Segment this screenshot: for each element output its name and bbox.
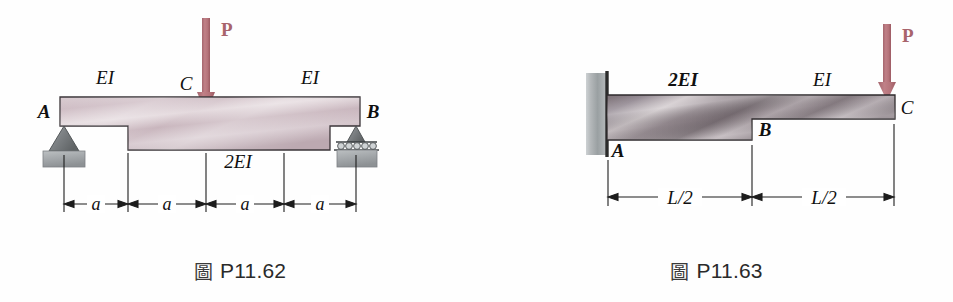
roller-circles [338,143,377,150]
dimension-label-l2-2: L/2 [810,187,837,208]
node-label-c: C [901,97,914,118]
dimension-chain [608,194,894,201]
stiffness-label-ei-right: EI [300,67,321,88]
fixed-support-a [586,71,607,157]
node-label-a: A [37,101,51,122]
stiffness-label-2ei: 2EI [667,69,698,90]
load-label-p: P [221,19,233,40]
dimension-label-l2-1: L/2 [666,187,693,208]
figure-sheet: P EI EI 2EI A C B [0,0,953,302]
figure-caption-text: P11.63 [697,259,763,283]
figure-p1162: P EI EI 2EI A C B [0,0,480,302]
beam-body [60,97,360,150]
dimension-label-a-4: a [316,194,325,214]
stiffness-label-ei: EI [812,69,833,90]
figure-caption-glyph: 圖 [670,257,689,284]
dimension-label-a-1: a [92,194,101,214]
figure-caption-glyph: 圖 [194,257,213,284]
load-arrow-p [878,24,896,101]
beam-body [607,95,895,140]
figure-caption-p1162: 圖P11.62 [0,257,480,284]
node-label-a: A [611,140,625,161]
figure-caption-text: P11.62 [220,259,286,283]
node-label-b: B [366,101,380,122]
dimension-label-a-2: a [163,194,172,214]
figure-p1163: P 2EI EI A B C [480,0,953,302]
dimension-label-a-3: a [241,194,250,214]
node-label-b: B [758,119,772,140]
stiffness-label-ei-left: EI [95,67,116,88]
figure-caption-p1163: 圖P11.63 [480,257,953,284]
beam-sheen [60,97,360,150]
stiffness-label-2ei: 2EI [224,151,253,172]
beam-sheen [607,95,895,140]
node-label-c: C [180,73,193,94]
load-label-p: P [902,25,914,46]
